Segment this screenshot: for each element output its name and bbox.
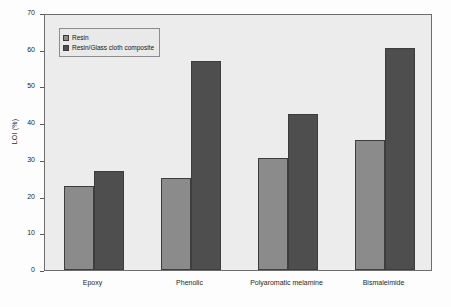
- bar: [191, 61, 221, 270]
- plot-area: ResinResin/Glass cloth composite: [44, 14, 432, 271]
- x-axis-tick-label: Phenolic: [176, 279, 203, 286]
- bar-group: [239, 15, 336, 270]
- x-axis-tick-label: Epoxy: [83, 279, 102, 286]
- bar: [355, 140, 385, 270]
- bar: [161, 178, 191, 270]
- y-axis-tick-label: 60: [27, 46, 35, 53]
- y-axis-tick-label: 20: [27, 193, 35, 200]
- y-axis-tick-label: 40: [27, 119, 35, 126]
- x-axis-tick-label: Polyaromatic melamine: [250, 279, 323, 286]
- bar: [288, 114, 318, 270]
- y-axis-tick-label: 70: [27, 9, 35, 16]
- y-axis-tick-label: 0: [31, 266, 35, 273]
- bar: [94, 171, 124, 270]
- legend-entry: Resin: [63, 33, 154, 42]
- y-axis-tick-label: 30: [27, 156, 35, 163]
- x-axis-tick-label: Bismaleimide: [363, 279, 405, 286]
- legend-swatch-icon: [63, 35, 69, 41]
- bar-group: [336, 15, 433, 270]
- bar: [258, 158, 288, 270]
- y-axis-tick-mark: [40, 271, 44, 272]
- bar: [385, 48, 415, 270]
- bar-chart-figure: LOI (%) 010203040506070 ResinResin/Glass…: [0, 0, 451, 307]
- legend-entry: Resin/Glass cloth composite: [63, 43, 154, 52]
- legend-swatch-icon: [63, 45, 69, 51]
- bar: [64, 186, 94, 270]
- y-axis-label: LOI (%): [11, 102, 18, 162]
- chart-legend: ResinResin/Glass cloth composite: [59, 28, 160, 57]
- legend-label: Resin/Glass cloth composite: [72, 44, 154, 52]
- legend-label: Resin: [72, 34, 89, 42]
- y-axis-tick-label: 10: [27, 229, 35, 236]
- y-axis-tick-label: 50: [27, 82, 35, 89]
